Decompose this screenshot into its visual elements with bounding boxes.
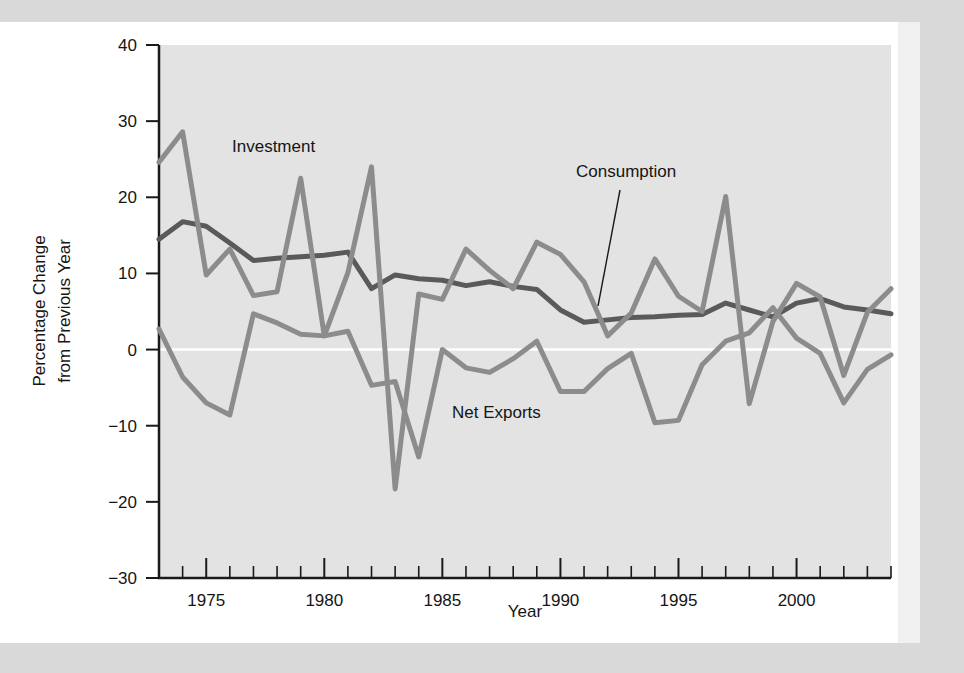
series-annotation-investment: Investment xyxy=(232,137,315,156)
x-tick-label: 1975 xyxy=(187,591,225,610)
x-tick-label: 2000 xyxy=(778,591,816,610)
line-chart: 403020100−10−20−30 197519801985199019952… xyxy=(0,0,964,673)
figure-container: 403020100−10−20−30 197519801985199019952… xyxy=(0,0,964,673)
y-axis-ticks xyxy=(146,45,159,578)
y-tick-label: −30 xyxy=(108,569,137,588)
x-axis-tick-labels: 197519801985199019952000 xyxy=(187,591,815,610)
x-tick-label: 1985 xyxy=(423,591,461,610)
y-tick-label: −20 xyxy=(108,493,137,512)
series-annotation-net-exports: Net Exports xyxy=(452,403,541,422)
series-annotation-consumption: Consumption xyxy=(576,162,676,181)
y-tick-label: 10 xyxy=(118,264,137,283)
y-tick-label: 0 xyxy=(128,341,137,360)
y-tick-label: −10 xyxy=(108,417,137,436)
y-tick-label: 30 xyxy=(118,112,137,131)
y-axis-tick-labels: 403020100−10−20−30 xyxy=(108,36,137,588)
x-tick-label: 1995 xyxy=(660,591,698,610)
y-tick-label: 20 xyxy=(118,188,137,207)
x-axis-title: Year xyxy=(508,602,543,621)
y-axis-title-line1: Percentage Change xyxy=(30,235,49,386)
x-tick-label: 1980 xyxy=(305,591,343,610)
x-tick-label: 1990 xyxy=(542,591,580,610)
y-tick-label: 40 xyxy=(118,36,137,55)
y-axis-title-line2: from Previous Year xyxy=(55,239,74,383)
